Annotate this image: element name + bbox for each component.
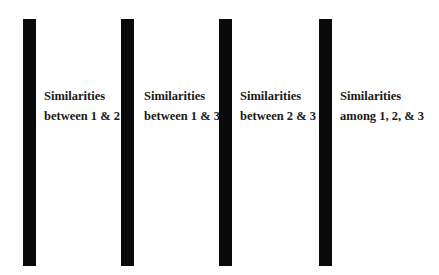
divider-bar-2 xyxy=(121,19,134,266)
label-title: Similarities xyxy=(144,86,220,106)
column-label-2: Similarities between 1 & 3 xyxy=(144,86,220,126)
label-subtitle: between 2 & 3 xyxy=(240,106,316,126)
divider-bar-3 xyxy=(219,19,232,266)
column-label-1: Similarities between 1 & 2 xyxy=(44,86,120,126)
label-title: Similarities xyxy=(340,86,424,106)
divider-bar-4 xyxy=(319,19,332,266)
column-label-3: Similarities between 2 & 3 xyxy=(240,86,316,126)
column-label-4: Similarities among 1, 2, & 3 xyxy=(340,86,424,126)
label-title: Similarities xyxy=(44,86,120,106)
divider-bar-1 xyxy=(23,19,36,266)
label-subtitle: among 1, 2, & 3 xyxy=(340,106,424,126)
label-subtitle: between 1 & 3 xyxy=(144,106,220,126)
label-title: Similarities xyxy=(240,86,316,106)
label-subtitle: between 1 & 2 xyxy=(44,106,120,126)
